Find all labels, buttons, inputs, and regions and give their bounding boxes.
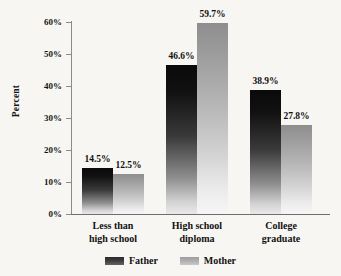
bar-chart: Percent 0% 10% 20% 30% 40% 50% 60% 14.5%… (0, 0, 341, 276)
legend-item-father[interactable]: Father (105, 256, 158, 266)
legend-label-father: Father (129, 256, 158, 266)
bar-mother-college-graduate[interactable] (281, 125, 312, 214)
value-label-mother-high-school-diploma: 59.7% (193, 10, 232, 20)
x-category-line-2: graduate (239, 233, 323, 246)
y-tick-label-30: 30% (22, 114, 62, 123)
bar-father-college-graduate[interactable] (250, 90, 281, 214)
bar-father-less-than-high-school[interactable] (82, 168, 113, 214)
y-tick-label-40: 40% (22, 82, 62, 91)
y-tick-label-0: 0% (22, 210, 62, 219)
y-tick-label-20: 20% (22, 146, 62, 155)
legend-label-mother: Mother (204, 256, 236, 266)
x-category-line-1: College (239, 220, 323, 233)
bar-mother-high-school-diploma[interactable] (197, 23, 228, 214)
y-tick-label-10: 10% (22, 178, 62, 187)
bar-father-high-school-diploma[interactable] (166, 65, 197, 214)
x-category-label-college-graduate: College graduate (239, 220, 323, 245)
value-label-mother-less-than-high-school: 12.5% (109, 161, 148, 171)
value-label-father-high-school-diploma: 46.6% (162, 52, 201, 62)
x-category-line-2: diploma (155, 233, 239, 246)
bar-mother-less-than-high-school[interactable] (113, 174, 144, 214)
x-category-label-high-school-diploma: High school diploma (155, 220, 239, 245)
chart-legend: Father Mother (0, 256, 341, 266)
x-category-label-less-than-high-school: Less than high school (71, 220, 155, 245)
x-category-line-1: Less than (71, 220, 155, 233)
x-category-line-2: high school (71, 233, 155, 246)
y-tick-label-60: 60% (22, 18, 62, 27)
y-axis-title: Percent (11, 71, 21, 131)
x-axis-line (71, 214, 330, 215)
y-tick-label-50: 50% (22, 50, 62, 59)
legend-swatch-mother-icon (180, 257, 199, 265)
x-category-line-1: High school (155, 220, 239, 233)
y-tick-mark-0 (66, 214, 71, 215)
value-label-father-college-graduate: 38.9% (246, 77, 285, 87)
plot-area: 14.5% 12.5% 46.6% 59.7% 38.9% 27.8% (71, 22, 329, 214)
value-label-mother-college-graduate: 27.8% (277, 112, 316, 122)
legend-swatch-father-icon (105, 257, 124, 265)
legend-item-mother[interactable]: Mother (180, 256, 236, 266)
